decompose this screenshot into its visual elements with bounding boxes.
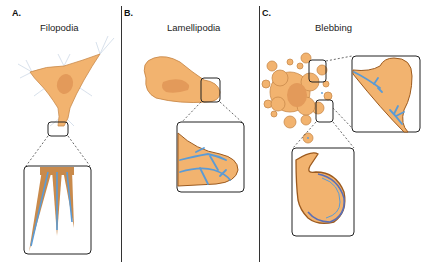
lamellipodia-inset: [177, 122, 244, 192]
blebbing-nucleus: [287, 83, 307, 107]
diagram-canvas: [0, 0, 423, 268]
blebbing-inset-bottom: [292, 148, 354, 236]
filopodia-inset: [24, 166, 91, 254]
lamellipodia-cell: [144, 57, 220, 103]
filopodia-cell: [18, 36, 114, 126]
blebbing-inset-top: [352, 56, 420, 132]
